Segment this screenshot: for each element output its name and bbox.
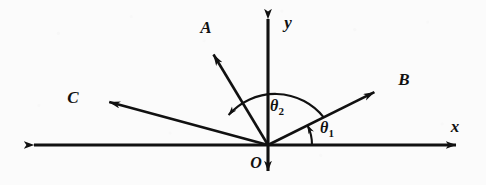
vector-diagram-figure: A B C y x O θ1 θ2 [0, 0, 486, 185]
diagram-canvas: A B C y x O θ1 θ2 [0, 0, 486, 185]
theta-1-label: θ1 [320, 119, 334, 139]
theta-2-subscript: 2 [278, 105, 284, 117]
vector-group [109, 55, 374, 146]
vector-c-label: C [67, 88, 79, 107]
origin-label: O [250, 154, 262, 171]
x-axis-label: x [450, 117, 460, 136]
y-axis-label: y [282, 13, 292, 32]
vector-c-line [109, 102, 268, 145]
theta-1-arc [307, 125, 312, 145]
axis-group [34, 19, 456, 171]
theta-1-subscript: 1 [328, 127, 334, 139]
label-group: A B C y x O θ1 θ2 [67, 13, 459, 171]
theta-2-label: θ2 [270, 97, 284, 117]
vector-a-label: A [199, 18, 211, 37]
vector-b-label: B [397, 70, 409, 89]
